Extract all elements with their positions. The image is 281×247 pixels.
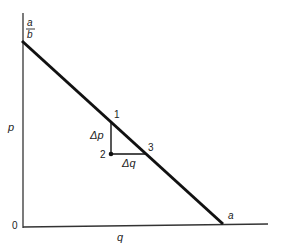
point-2-dot bbox=[109, 152, 114, 157]
y-axis-label: p bbox=[7, 121, 14, 133]
point-1-label: 1 bbox=[114, 109, 120, 120]
x-axis-label: q bbox=[117, 231, 124, 243]
demand-diagram: a b p q 0 a 1 2 3 Δp Δq bbox=[0, 0, 281, 247]
y-intercept-numerator: a bbox=[27, 17, 33, 28]
y-intercept-denominator: b bbox=[27, 29, 33, 40]
point-3-label: 3 bbox=[148, 142, 154, 153]
delta-p-label: Δp bbox=[89, 129, 104, 141]
x-axis bbox=[23, 224, 268, 227]
origin-label: 0 bbox=[12, 220, 18, 231]
demand-line bbox=[22, 41, 223, 224]
point-2-label: 2 bbox=[100, 149, 106, 160]
delta-q-label: Δq bbox=[121, 157, 136, 169]
x-intercept-label: a bbox=[228, 210, 234, 221]
